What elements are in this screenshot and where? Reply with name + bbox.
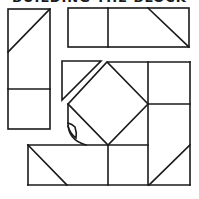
- quilt-block-diagram: [0, 0, 199, 199]
- left-strip-piece: [8, 9, 50, 129]
- bottom-strip-piece: [28, 145, 190, 185]
- curled-corner-icon: [68, 123, 76, 138]
- right-column-piece: [108, 62, 190, 185]
- top-strip-piece: [68, 8, 189, 47]
- loose-triangle-piece: [62, 61, 101, 100]
